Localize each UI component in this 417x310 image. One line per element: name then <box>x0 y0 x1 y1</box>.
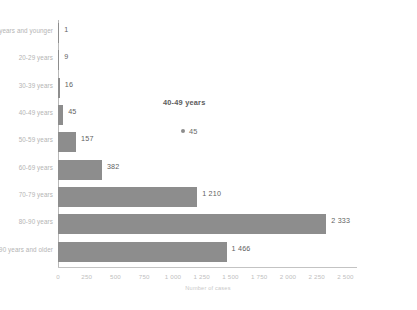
bar-value-label: 2 333 <box>331 216 350 225</box>
x-axis-tick-label: 750 <box>139 273 150 280</box>
x-axis-tick-label: 500 <box>110 273 121 280</box>
x-axis-title: Number of cases <box>185 285 230 291</box>
bar[interactable] <box>58 160 102 180</box>
category-label: 40-49 years <box>19 109 53 116</box>
bar-value-label: 382 <box>107 162 120 171</box>
bar-row[interactable]: 90 years and older1 466 <box>58 239 357 266</box>
bar-value-label: 1 <box>64 25 68 34</box>
bar-row[interactable]: 20-29 years9 <box>58 47 357 74</box>
bar-row[interactable]: 70-79 years1 210 <box>58 184 357 211</box>
bar[interactable] <box>58 78 60 98</box>
category-label: 30-39 years <box>19 82 53 89</box>
bar[interactable] <box>58 105 63 125</box>
bar-value-label: 45 <box>68 107 76 116</box>
bar-row[interactable]: 60-69 years382 <box>58 157 357 184</box>
bar-row[interactable]: 80-90 years2 333 <box>58 211 357 238</box>
bar[interactable] <box>58 50 59 70</box>
tooltip-title: 40-49 years <box>163 98 273 107</box>
category-label: 50-59 years <box>19 136 53 143</box>
plot-area: years and younger120-29 years930-39 year… <box>58 20 357 266</box>
bar[interactable] <box>58 214 326 234</box>
x-axis-line <box>58 267 357 268</box>
category-label: 60-69 years <box>19 164 53 171</box>
category-label: years and younger <box>0 27 53 34</box>
bar-row[interactable]: years and younger1 <box>58 20 357 47</box>
category-label: 70-79 years <box>19 191 53 198</box>
bar-value-label: 1 466 <box>232 244 251 253</box>
bar[interactable] <box>58 23 59 43</box>
category-label: 20-29 years <box>19 54 53 61</box>
x-axis-tick-label: 1 250 <box>194 273 210 280</box>
tooltip-marker-icon <box>181 129 185 133</box>
category-label: 90 years and older <box>0 246 53 253</box>
chart-tooltip: 40-49 years 45 <box>163 98 273 136</box>
bar[interactable] <box>58 187 197 207</box>
bar-chart-figure: years and younger120-29 years930-39 year… <box>0 0 417 310</box>
bar-value-label: 9 <box>64 52 68 61</box>
bar[interactable] <box>58 132 76 152</box>
category-label: 80-90 years <box>19 218 53 225</box>
x-axis-tick-label: 1 750 <box>251 273 267 280</box>
x-axis-tick-label: 1 500 <box>222 273 238 280</box>
bar-value-label: 1 210 <box>202 189 221 198</box>
bar-value-label: 157 <box>81 134 94 143</box>
bar-value-label: 16 <box>65 80 73 89</box>
bar[interactable] <box>58 242 227 262</box>
x-axis-tick-label: 2 500 <box>337 273 353 280</box>
x-axis-tick-label: 250 <box>81 273 92 280</box>
x-axis-tick-label: 2 250 <box>309 273 325 280</box>
x-axis-tick-label: 2 000 <box>280 273 296 280</box>
x-axis-tick-label: 0 <box>56 273 60 280</box>
x-axis-tick-label: 1 000 <box>165 273 181 280</box>
tooltip-value: 45 <box>189 127 198 136</box>
tooltip-value-row: 45 <box>181 127 273 136</box>
